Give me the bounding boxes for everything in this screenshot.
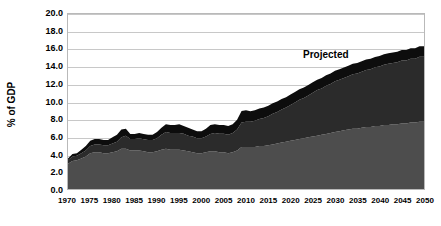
x-axis-tick: 2050 bbox=[405, 196, 441, 206]
stacked-area-series bbox=[68, 14, 424, 189]
chart-container: % of GDP 20.018.016.014.012.010.08.06.04… bbox=[0, 0, 441, 226]
y-axis-tick-labels: 20.018.016.014.012.010.08.06.04.02.00.0 bbox=[33, 0, 63, 226]
y-axis-tick: 6.0 bbox=[33, 133, 63, 141]
y-axis-tick: 4.0 bbox=[33, 151, 63, 159]
plot-area bbox=[67, 13, 425, 190]
y-axis-tick: 14.0 bbox=[33, 62, 63, 70]
y-axis-tick: 8.0 bbox=[33, 115, 63, 123]
y-axis-tick: 0.0 bbox=[33, 186, 63, 194]
y-axis-tick: 20.0 bbox=[33, 9, 63, 17]
y-axis-title: % of GDP bbox=[5, 64, 19, 144]
y-axis-tick: 2.0 bbox=[33, 168, 63, 176]
y-axis-tick: 12.0 bbox=[33, 80, 63, 88]
projected-annotation: Projected bbox=[303, 49, 349, 60]
y-axis-title-label: % of GDP bbox=[7, 81, 18, 127]
y-axis-tick: 10.0 bbox=[33, 98, 63, 106]
y-axis-tick: 16.0 bbox=[33, 44, 63, 52]
y-axis-tick: 18.0 bbox=[33, 27, 63, 35]
x-axis-tick-labels: 1970197519801985199019952000200520102015… bbox=[0, 196, 441, 210]
